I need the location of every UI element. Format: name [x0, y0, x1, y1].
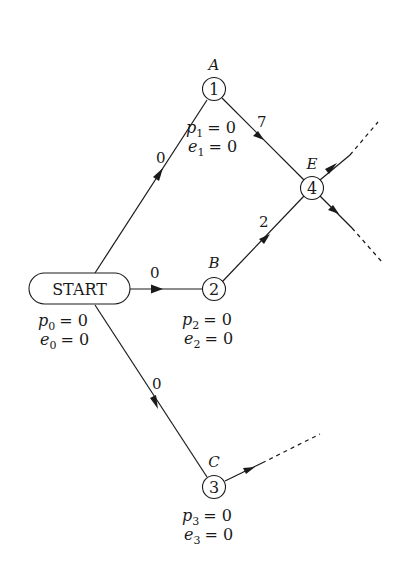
weight-start-1: 0	[156, 149, 166, 167]
node-2-name: B	[207, 254, 219, 272]
svg-text:e0= 0: e0= 0	[40, 330, 89, 352]
node-4: E 4	[301, 155, 324, 200]
node-2-labels: p2= 0 e2= 0	[182, 310, 233, 351]
network-diagram: 0 0 0 7 2 START p0= 0 e0= 0 A 1 p1= 0 e1…	[0, 0, 393, 570]
svg-text:e1= 0: e1= 0	[188, 137, 237, 159]
node-1: A 1	[203, 56, 226, 101]
edge-4-out-down	[320, 196, 382, 262]
svg-text:e2= 0: e2= 0	[184, 329, 233, 351]
start-label: START	[52, 280, 107, 299]
start-node: START	[29, 273, 130, 304]
node-3-labels: p3= 0 e3= 0	[182, 506, 233, 547]
node-1-name: A	[207, 56, 220, 74]
node-4-name: E	[306, 155, 318, 173]
start-labels: p0= 0 e0= 0	[38, 311, 89, 352]
node-2: B 2	[203, 254, 226, 301]
weight-2-4: 2	[259, 213, 269, 231]
svg-text:e3= 0: e3= 0	[184, 525, 233, 547]
weight-start-2: 0	[150, 264, 160, 282]
edge-2-to-4	[222, 196, 304, 282]
edge-start-to-2	[130, 285, 203, 294]
edge-4-out-up	[320, 122, 378, 180]
node-2-id: 2	[209, 280, 219, 299]
weight-start-3: 0	[152, 375, 162, 393]
node-1-id: 1	[209, 80, 219, 99]
weight-1-4: 7	[257, 113, 267, 131]
node-4-id: 4	[307, 179, 317, 198]
node-1-labels: p1= 0 e1= 0	[186, 118, 237, 159]
node-3-name: C	[208, 453, 220, 471]
edge-3-out	[225, 434, 320, 481]
node-3-id: 3	[209, 478, 219, 497]
